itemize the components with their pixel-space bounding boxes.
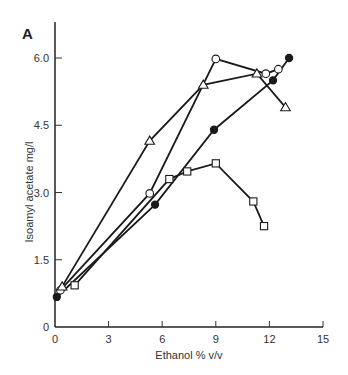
y-tick-label: 3.0 — [34, 187, 49, 199]
series-group — [53, 54, 292, 300]
x-tick-label: 12 — [263, 333, 275, 345]
open-circle-marker — [262, 70, 270, 78]
x-tick-label: 3 — [106, 333, 112, 345]
open-square-marker — [250, 198, 257, 205]
series-open-circle — [57, 55, 283, 294]
y-tick-label: 0 — [43, 321, 49, 333]
filled-circle-marker — [210, 126, 217, 133]
x-tick-label: 6 — [159, 333, 165, 345]
x-axis-title: Ethanol % v/v — [155, 349, 223, 361]
open-circle-marker — [275, 65, 283, 73]
open-square-marker — [71, 282, 78, 289]
y-tick-label: 6.0 — [34, 52, 49, 64]
axes: 0369121501.53.04.56.0 — [34, 22, 329, 345]
line-chart: 0369121501.53.04.56.0 Ethanol % v/v Isoa… — [0, 0, 348, 375]
y-tick-label: 1.5 — [34, 254, 49, 266]
open-circle-marker — [212, 55, 220, 63]
open-square-marker — [212, 160, 219, 167]
open-square-marker — [166, 175, 173, 182]
series-line — [60, 59, 278, 290]
open-square-marker — [260, 223, 267, 230]
x-tick-label: 9 — [213, 333, 219, 345]
y-axis-title: Isoamyl acetate mg/l — [23, 142, 35, 243]
open-circle-marker — [146, 190, 154, 198]
open-square-marker — [184, 168, 191, 175]
filled-circle-marker — [151, 201, 158, 208]
filled-circle-marker — [269, 77, 276, 84]
y-tick-label: 4.5 — [34, 119, 49, 131]
x-tick-label: 15 — [317, 333, 329, 345]
filled-circle-marker — [285, 54, 292, 61]
x-tick-label: 0 — [52, 333, 58, 345]
